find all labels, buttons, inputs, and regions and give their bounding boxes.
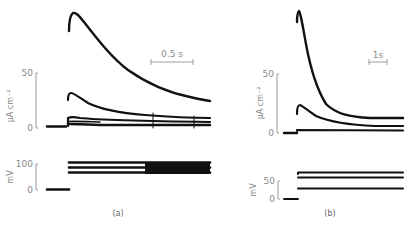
panel-b-current-traces: [284, 11, 403, 133]
tick-label: 0: [268, 128, 274, 138]
tick-label: 50: [263, 69, 275, 79]
axis-unit-label: mV: [6, 170, 15, 184]
axis-unit-label: μA cm⁻²: [256, 87, 265, 120]
axis-unit-label: μA cm⁻²: [6, 90, 15, 123]
panel-label: (b): [324, 209, 335, 218]
voltage-step-1: [298, 173, 403, 175]
tick-label: 0: [27, 123, 33, 133]
trace-large: [69, 13, 210, 101]
trace-small-inner: [68, 121, 100, 122]
tick-label: 100: [16, 159, 33, 169]
scale-bar-label: 1s: [373, 50, 384, 60]
trace-small-lower: [68, 124, 210, 125]
panel-a-current-traces: [47, 13, 210, 128]
scale-bar-label: 0.5 s: [161, 49, 183, 59]
tick-label: 0: [27, 185, 33, 195]
panel-b-current-axis: 50 0 μA cm⁻²: [256, 69, 279, 138]
panel-b-voltage-axis: 50 0 mV: [249, 176, 280, 204]
axis-unit-label: mV: [249, 183, 258, 197]
panel-b-voltage-traces: [284, 173, 403, 200]
tick-label: 0: [269, 194, 275, 204]
panel-a-voltage-traces: [47, 162, 210, 190]
panel-b-time-scale-bar: 1s: [369, 50, 387, 65]
panel-label: (a): [112, 209, 123, 218]
trace-small: [297, 130, 403, 131]
figure: 50 0 μA cm⁻² 0.5 s: [0, 0, 407, 226]
panel-a-time-scale-bar: 0.5 s: [151, 49, 193, 65]
panel-b: 50 0 μA cm⁻² 1s 50 0 mV: [249, 11, 403, 218]
voltage-merge-block: [145, 162, 210, 174]
panel-a: 50 0 μA cm⁻² 0.5 s: [6, 13, 210, 218]
panel-a-voltage-axis: 100 0 mV: [6, 159, 38, 195]
tick-label: 50: [22, 68, 34, 78]
tick-label: 50: [264, 176, 276, 186]
panel-a-current-axis: 50 0 μA cm⁻²: [6, 68, 38, 133]
